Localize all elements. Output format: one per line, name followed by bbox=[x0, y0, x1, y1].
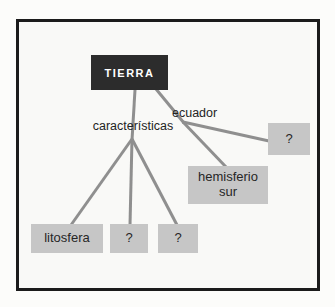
node-unknown-bottom-2[interactable]: ? bbox=[158, 224, 198, 253]
node-unknown-bottom-1[interactable]: ? bbox=[110, 224, 148, 253]
node-hemisferio-sur[interactable]: hemisferio sur bbox=[188, 166, 268, 204]
node-litosfera[interactable]: litosfera bbox=[31, 224, 103, 253]
node-unknown-right[interactable]: ? bbox=[268, 123, 310, 155]
edge-label-caracteristicas: características bbox=[93, 119, 174, 133]
node-tierra[interactable]: TIERRA bbox=[91, 55, 168, 90]
edge-label-ecuador: ecuador bbox=[172, 106, 217, 120]
